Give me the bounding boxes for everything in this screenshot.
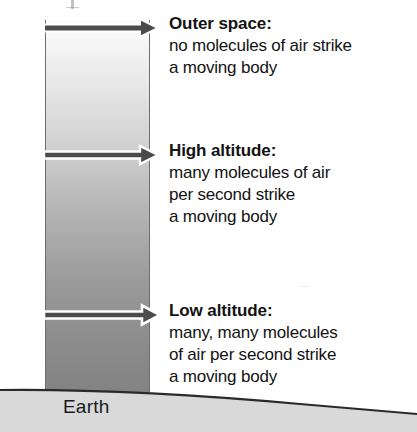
callout-line: a moving body: [169, 57, 417, 79]
earth-label: Earth: [63, 396, 109, 418]
right-arrow-icon: [40, 142, 162, 168]
arrow-high-altitude: [40, 142, 162, 168]
callout-line: a moving body: [169, 366, 417, 388]
arrow-outer-space: [40, 15, 162, 41]
callout-low-altitude: Low altitude: many, many molecules of ai…: [169, 300, 417, 388]
right-arrow-icon: [40, 15, 162, 41]
callout-heading: Low altitude:: [169, 300, 417, 322]
callout-line: a moving body: [169, 206, 417, 228]
air-resistance-diagram: Earth Outer space: no molecules of air s…: [0, 0, 417, 432]
callout-line: of air per second strike: [169, 344, 417, 366]
callout-line: many molecules of air: [169, 162, 417, 184]
callout-heading: Outer space:: [169, 13, 417, 35]
callout-line: per second strike: [169, 184, 417, 206]
callout-high-altitude: High altitude: many molecules of air per…: [169, 140, 417, 228]
scan-artifact: [300, 286, 309, 287]
arrow-low-altitude: [40, 302, 162, 328]
callout-line: no molecules of air strike: [169, 35, 417, 57]
right-arrow-icon: [40, 302, 162, 328]
atmosphere-column: [45, 20, 150, 392]
callout-heading: High altitude:: [169, 140, 417, 162]
callout-outer-space: Outer space: no molecules of air strike …: [169, 13, 417, 79]
callout-line: many, many molecules: [169, 322, 417, 344]
scan-artifact: [66, 7, 79, 8]
